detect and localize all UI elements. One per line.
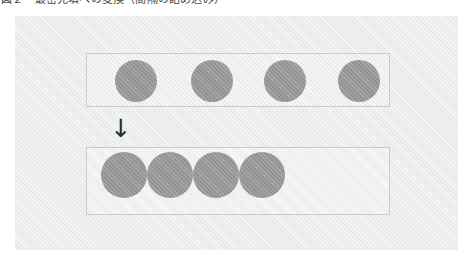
figure-panel: ↓	[15, 16, 458, 250]
figure-caption-text: 図２ 最密充填への変換（間隔の詰め込み）	[1, 0, 225, 6]
circle-before-1	[115, 60, 157, 102]
circle-before-3	[264, 60, 306, 102]
circle-after-1	[101, 152, 147, 198]
circle-after-3	[193, 152, 239, 198]
packed-row-box	[86, 147, 390, 215]
circle-before-4	[338, 60, 380, 102]
circle-before-2	[191, 60, 233, 102]
circle-after-4	[239, 152, 285, 198]
figure-caption: 図２ 最密充填への変換（間隔の詰め込み）	[0, 0, 470, 9]
spaced-row-box	[86, 53, 390, 107]
down-arrow-icon: ↓	[108, 114, 134, 144]
circle-after-2	[147, 152, 193, 198]
